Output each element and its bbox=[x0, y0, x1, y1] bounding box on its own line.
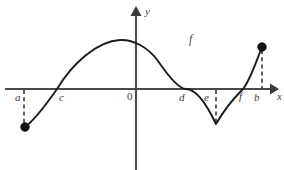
x-label-d: d bbox=[179, 92, 185, 103]
x-axis-label: x bbox=[277, 91, 282, 102]
x-label-b: b bbox=[254, 92, 260, 103]
function-curve-f bbox=[25, 40, 262, 127]
x-label-e: e bbox=[204, 92, 209, 103]
endpoint-dot-b bbox=[258, 43, 266, 51]
x-label-c: c bbox=[59, 92, 64, 103]
endpoint-dot-a bbox=[21, 123, 29, 131]
x-label-f: f bbox=[239, 91, 242, 102]
function-graph-figure: y x f a c 0 d e f b bbox=[0, 0, 284, 170]
x-label-origin: 0 bbox=[127, 91, 133, 102]
y-axis-label: y bbox=[145, 6, 150, 17]
x-label-a: a bbox=[15, 92, 21, 103]
y-axis-arrowhead bbox=[131, 6, 142, 16]
function-label-f: f bbox=[189, 33, 192, 45]
graph-canvas bbox=[0, 0, 284, 170]
